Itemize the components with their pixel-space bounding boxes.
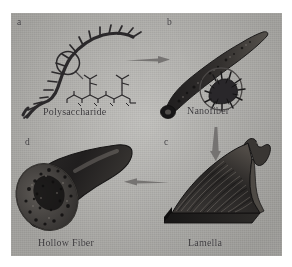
figure-panel: a Polysaccharide bbox=[11, 13, 282, 256]
panel-c-caption: Lamella bbox=[188, 237, 222, 248]
panel-b-letter: b bbox=[167, 17, 172, 27]
panel-b: b Nanofiber bbox=[149, 13, 282, 133]
panel-a-caption: Polysaccharide bbox=[43, 106, 106, 117]
panel-d-caption: Hollow Fiber bbox=[38, 237, 94, 248]
panel-d: d Hollow Fiber bbox=[13, 131, 153, 256]
lamella-wedge bbox=[172, 143, 260, 213]
figure-container: a Polysaccharide bbox=[0, 0, 292, 267]
panel-b-caption: Nanofiber bbox=[187, 105, 229, 116]
lamella-base bbox=[164, 213, 260, 223]
panel-a: a Polysaccharide bbox=[11, 13, 151, 131]
chemical-structure-inset bbox=[67, 75, 136, 106]
panel-a-letter: a bbox=[17, 17, 21, 27]
panel-c-letter: c bbox=[164, 137, 168, 147]
panel-c: c Lamella bbox=[156, 133, 282, 256]
panel-d-letter: d bbox=[25, 137, 30, 147]
